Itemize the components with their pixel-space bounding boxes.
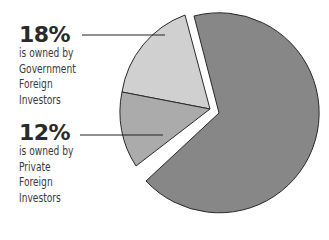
annotation-private: 12% is owned by Private Foreign Investor… [19, 122, 81, 206]
desc-government-line4: Investors [19, 93, 76, 109]
desc-private-line1: is owned by [19, 144, 73, 160]
desc-private-line3: Foreign [19, 175, 73, 191]
desc-government-line2: Government [19, 62, 76, 78]
desc-private-line4: Investors [19, 191, 73, 207]
annotation-government: 18% is owned by Government Foreign Inves… [19, 24, 84, 108]
desc-private-line2: Private [19, 160, 73, 176]
desc-government-line1: is owned by [19, 46, 76, 62]
percent-private: 12% [19, 122, 81, 144]
desc-government-line3: Foreign [19, 77, 76, 93]
percent-government: 18% [19, 24, 84, 46]
